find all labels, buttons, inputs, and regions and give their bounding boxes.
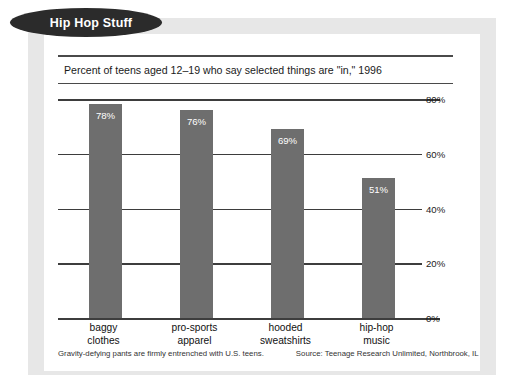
chart-subtitle: Percent of teens aged 12–19 who say sele…: [58, 57, 453, 83]
bar[interactable]: 51%: [362, 178, 395, 318]
category-label-line: apparel: [149, 335, 240, 348]
y-axis-tick-label: 0%: [426, 313, 440, 324]
gridline-80: [58, 99, 440, 101]
category-label-line: sweatshirts: [240, 335, 331, 348]
page-title: Hip Hop Stuff: [40, 16, 132, 30]
category-label-line: baggy: [58, 322, 149, 335]
y-axis-tick-label: 40%: [426, 203, 445, 214]
y-axis-tick-label: 20%: [426, 258, 445, 269]
y-axis-tick-label: 60%: [426, 148, 445, 159]
bar-value-label: 78%: [89, 110, 122, 121]
title-badge: Hip Hop Stuff: [10, 8, 162, 37]
category-label: baggyclothes: [58, 322, 149, 347]
bar-value-label: 76%: [180, 116, 213, 127]
category-label-line: pro-sports: [149, 322, 240, 335]
category-label: pro-sportsapparel: [149, 322, 240, 347]
category-label-line: hooded: [240, 322, 331, 335]
source-text: Source: Teenage Research Unlimited, Nort…: [296, 349, 479, 358]
category-labels: baggyclothespro-sportsapparelhoodedsweat…: [58, 322, 422, 350]
plot-area: 80%60%40%20%0%78%76%69%51%: [58, 99, 422, 318]
category-label: hip-hopmusic: [331, 322, 422, 347]
bar[interactable]: 69%: [271, 129, 304, 318]
bar-value-label: 51%: [362, 184, 395, 195]
footer: Gravity-defying pants are firmly entrenc…: [58, 349, 458, 358]
bar[interactable]: 78%: [89, 104, 122, 318]
subtitle-block: Percent of teens aged 12–19 who say sele…: [58, 55, 453, 84]
category-label-line: clothes: [58, 335, 149, 348]
rule-bottom: [58, 83, 453, 85]
y-axis-tick-label: 80%: [426, 94, 445, 105]
footnote-text: Gravity-defying pants are firmly entrenc…: [58, 349, 264, 358]
category-label-line: hip-hop: [331, 322, 422, 335]
category-label: hoodedsweatshirts: [240, 322, 331, 347]
gridline-0: [58, 318, 440, 320]
category-label-line: music: [331, 335, 422, 348]
bar[interactable]: 76%: [180, 110, 213, 318]
bar-value-label: 69%: [271, 135, 304, 146]
